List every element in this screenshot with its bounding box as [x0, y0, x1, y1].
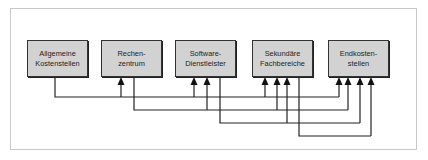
box-label: Allgemeine Kostenstellen [35, 49, 79, 69]
box-label: Rechen- zentrum [118, 49, 146, 69]
box-label: Endkosten- stellen [340, 49, 377, 69]
box-label: Software- Dienstleister [185, 49, 226, 69]
box-endkostenstellen: Endkosten- stellen [328, 40, 389, 77]
box-sekundaere-fachbereiche: Sekundäre Fachbereiche [252, 40, 313, 77]
arrowheads [118, 77, 375, 85]
box-software-dienstleister: Software- Dienstleister [175, 40, 236, 77]
box-rechenzentrum: Rechen- zentrum [101, 40, 162, 77]
box-label: Sekundäre Fachbereiche [260, 49, 305, 69]
flow-connectors [0, 0, 428, 160]
box-allgemeine-kostenstellen: Allgemeine Kostenstellen [27, 40, 88, 77]
